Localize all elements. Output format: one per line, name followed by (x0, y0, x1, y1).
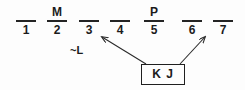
slot-1-letter (12, 6, 40, 19)
slot-2[interactable]: M 2 (43, 6, 71, 37)
slot-7-number: 7 (209, 22, 237, 37)
slot-2-number: 2 (43, 22, 71, 37)
slot-4-letter (106, 6, 134, 19)
tilde-l-annotation: ~L (70, 44, 84, 56)
slot-5[interactable]: P 5 (140, 6, 168, 37)
slot-5-letter: P (140, 6, 168, 19)
kj-box-label: K J (142, 65, 184, 83)
arrow-to-slot-6-7 (180, 37, 205, 64)
slot-7[interactable]: 7 (209, 6, 237, 37)
slot-6-letter (178, 6, 206, 19)
slot-2-letter: M (43, 6, 71, 19)
slot-6[interactable]: 6 (178, 6, 206, 37)
slot-1[interactable]: 1 (12, 6, 40, 37)
slot-4-number: 4 (106, 22, 134, 37)
slot-6-number: 6 (178, 22, 206, 37)
kj-box[interactable]: K J (141, 64, 185, 85)
slot-3[interactable]: 3 (75, 6, 103, 37)
slot-7-letter (209, 6, 237, 19)
slot-3-number: 3 (75, 22, 103, 37)
arrow-to-slot-4 (102, 37, 146, 64)
slot-diagram: 1 M 2 3 4 P 5 6 (0, 0, 245, 90)
slot-1-number: 1 (12, 22, 40, 37)
slot-4[interactable]: 4 (106, 6, 134, 37)
slot-5-number: 5 (140, 22, 168, 37)
slot-row: 1 M 2 3 4 P 5 6 (0, 6, 245, 36)
slot-3-letter (75, 6, 103, 19)
